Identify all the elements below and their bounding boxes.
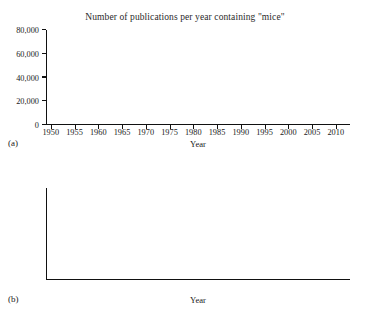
panel-a-tag: (a): [8, 138, 18, 148]
panel-a-plot-area: [46, 30, 350, 125]
x-tick-label: 1960: [90, 128, 107, 137]
x-tick-label: 1975: [161, 128, 178, 137]
x-tick-label: 1985: [209, 128, 226, 137]
x-tick-label: 1990: [232, 128, 249, 137]
y-tick-label: 40,000: [0, 73, 39, 82]
y-tick-label: 80,000: [0, 26, 39, 35]
panel-a-title: Number of publications per year containi…: [0, 12, 370, 22]
x-tick-label: 1980: [185, 128, 202, 137]
x-tick-label: 1950: [42, 128, 59, 137]
y-tick-label: 60,000: [0, 49, 39, 58]
x-tick-label: 2010: [327, 128, 344, 137]
panel-b-data-points: [46, 188, 350, 280]
panel-a: Number of publications per year containi…: [0, 0, 370, 160]
y-tick-label: 20,000: [0, 97, 39, 106]
x-tick-label: 2005: [304, 128, 321, 137]
panel-b-tag: (b): [8, 294, 19, 304]
y-tick-label: 0: [0, 121, 39, 130]
panel-b-plot-area: [46, 188, 350, 280]
panel-a-x-axis-label: Year: [190, 139, 206, 149]
x-tick-label: 2000: [280, 128, 297, 137]
x-tick-label: 1970: [137, 128, 154, 137]
x-tick-label: 1965: [114, 128, 131, 137]
x-tick-label: 1955: [66, 128, 83, 137]
x-tick-label: 1995: [256, 128, 273, 137]
panel-b-x-axis-label: Year: [190, 295, 206, 305]
panel-b: Year (b): [0, 160, 370, 318]
publications-figure: Number of publications per year containi…: [0, 0, 370, 318]
panel-a-data-points: [46, 30, 350, 125]
